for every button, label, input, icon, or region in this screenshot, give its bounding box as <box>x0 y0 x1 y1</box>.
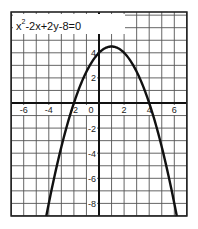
x-tick-label: 0 <box>88 105 93 115</box>
y-tick-label: -8 <box>88 199 96 209</box>
y-tick-label: 2 <box>91 73 96 83</box>
x-tick-label: -6 <box>20 105 28 115</box>
x-tick-label: -4 <box>45 105 53 115</box>
equation-label: x2-2x+2y-8=0 <box>16 18 81 32</box>
x-tick-label: 2 <box>122 105 127 115</box>
y-tick-label: -2 <box>88 124 96 134</box>
axes <box>11 12 187 216</box>
parabola-chart: -6-4-2024642-2-4-6-8 x2-2x+2y-8=0 <box>0 0 198 229</box>
y-tick-label: -6 <box>88 174 96 184</box>
x-tick-label: 6 <box>172 105 177 115</box>
equation-rest: -2x+2y-8=0 <box>25 20 81 32</box>
y-tick-label: -4 <box>88 149 96 159</box>
